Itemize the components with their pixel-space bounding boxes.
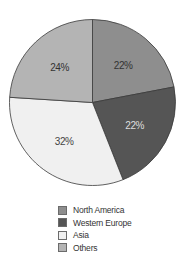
slice-value-label: 22% <box>114 60 133 71</box>
legend-label: Others <box>73 243 97 253</box>
legend-item-others: Others <box>58 242 131 255</box>
legend-item-western-europe: Western Europe <box>58 217 131 230</box>
legend-swatch <box>58 206 67 215</box>
legend-swatch <box>58 218 67 227</box>
pie-slices <box>10 20 176 186</box>
slice-value-label: 32% <box>55 136 74 147</box>
legend: North America Western Europe Asia Others <box>58 204 131 254</box>
legend-item-asia: Asia <box>58 229 131 242</box>
legend-swatch <box>58 243 67 252</box>
legend-swatch <box>58 231 67 240</box>
legend-item-north-america: North America <box>58 204 131 217</box>
slice-value-label: 22% <box>125 120 144 131</box>
legend-label: Western Europe <box>73 218 131 228</box>
legend-label: North America <box>73 205 124 215</box>
pie-chart: 22%22%32%24% <box>0 0 186 200</box>
legend-label: Asia <box>73 230 89 240</box>
slice-value-label: 24% <box>50 62 69 73</box>
